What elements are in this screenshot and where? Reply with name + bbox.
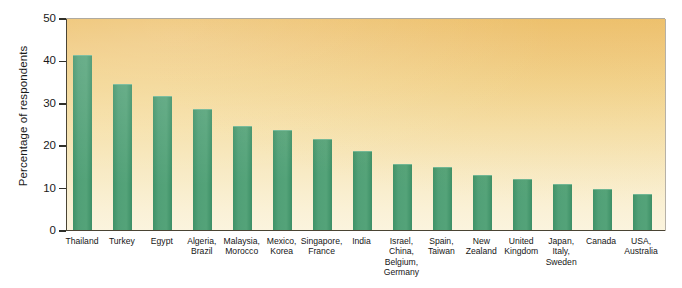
x-axis-label-line: France xyxy=(295,246,349,256)
y-axis-tick-label: 40 xyxy=(43,56,56,68)
x-axis-label: USA,Australia xyxy=(614,236,668,257)
x-axis-label-line: Sweden xyxy=(534,257,588,267)
y-axis-tick xyxy=(59,103,66,105)
bar xyxy=(433,167,452,230)
x-axis-category-labels: ThailandTurkeyEgyptAlgeria,BrazilMalaysi… xyxy=(66,236,665,288)
x-axis-label-line: Belgium, xyxy=(374,257,428,267)
plot-area xyxy=(66,19,665,231)
bar-series xyxy=(67,19,665,230)
y-axis-tick xyxy=(59,18,66,20)
bar-chart: Percentage of respondents 01020304050 Th… xyxy=(0,0,682,288)
y-axis-tick xyxy=(59,145,66,147)
bar xyxy=(313,139,332,230)
bar xyxy=(233,126,252,230)
y-axis-tick-label: 30 xyxy=(43,98,56,110)
y-axis-tick xyxy=(59,188,66,190)
bar xyxy=(553,184,572,230)
x-axis-label-line: USA, xyxy=(614,236,668,246)
y-axis-tick xyxy=(59,230,66,232)
x-axis-label-line: Australia xyxy=(614,246,668,256)
bar xyxy=(193,109,212,230)
bar xyxy=(153,96,172,230)
y-axis-tick-label: 10 xyxy=(43,183,56,195)
bar xyxy=(353,151,372,230)
bar xyxy=(273,130,292,230)
y-axis-tick-label: 20 xyxy=(43,140,56,152)
bar xyxy=(593,189,612,230)
y-axis-tick xyxy=(59,61,66,63)
bar xyxy=(513,179,532,230)
x-axis-label-line: Italy, xyxy=(534,246,588,256)
x-axis-label-line: Germany xyxy=(374,267,428,277)
y-axis-title: Percentage of respondents xyxy=(17,1,29,231)
bar xyxy=(473,175,492,230)
bar xyxy=(73,55,92,230)
y-axis-tick-label: 50 xyxy=(43,13,56,25)
bar xyxy=(393,164,412,230)
bar xyxy=(113,84,132,230)
bar xyxy=(633,194,652,230)
